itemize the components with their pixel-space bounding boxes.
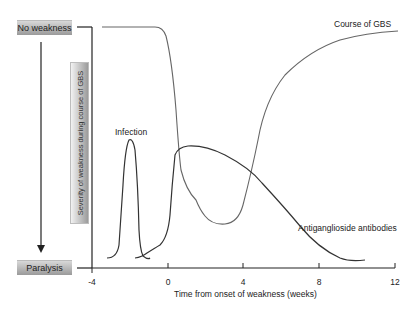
x-tick-label: 8: [317, 277, 322, 287]
arrow-down-icon: [37, 245, 45, 253]
x-axis-label: Time from onset of weakness (weeks): [174, 289, 317, 299]
y-axis-label-box: Severity of weakness during course of GB…: [70, 62, 89, 224]
x-tick-label: 4: [241, 277, 246, 287]
y-axis-label: Severity of weakness during course of GB…: [75, 71, 84, 216]
x-tick-label: 0: [166, 277, 171, 287]
infection-label: Infection: [115, 127, 147, 137]
x-tick-label: -4: [88, 277, 96, 287]
x-tick-label: 12: [390, 277, 399, 287]
antibodies-label: Antiganglioside antibodies: [298, 223, 397, 233]
gbs-course-curve: [102, 27, 398, 224]
antibodies-curve: [135, 146, 365, 261]
no-weakness-label: No weakness: [17, 20, 72, 35]
gbs-course-diagram: No weakness Paralysis Severity of weakne…: [0, 0, 415, 313]
infection-curve: [107, 140, 150, 259]
paralysis-label: Paralysis: [17, 260, 72, 275]
gbs-course-label: Course of GBS: [334, 19, 391, 29]
